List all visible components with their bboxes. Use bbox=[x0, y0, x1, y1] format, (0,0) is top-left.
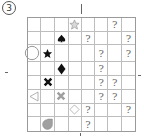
grid-cell-r3-c7 bbox=[122, 62, 135, 76]
grid-cell-r7-c5 bbox=[95, 117, 108, 131]
grid-cell-r0-c1 bbox=[41, 18, 55, 32]
spade-icon bbox=[57, 34, 66, 43]
grid-cell-r7-c4: ? bbox=[82, 117, 95, 131]
grid-cell-r3-c2 bbox=[55, 62, 68, 76]
grid-cell-r5-c1 bbox=[41, 90, 55, 104]
grid-cell-r1-c3 bbox=[69, 32, 82, 46]
grid-cell-r0-c0 bbox=[28, 18, 41, 32]
grid-cell-r4-c5: ? bbox=[95, 76, 108, 90]
cross-filled-icon bbox=[43, 77, 53, 87]
grid-cell-r6-c7: ? bbox=[122, 104, 135, 118]
grid-cell-r0-c4 bbox=[82, 18, 95, 32]
question-mark: ? bbox=[112, 77, 117, 88]
grid-cell-r4-c4 bbox=[82, 76, 95, 90]
bottom-tick-mark bbox=[80, 133, 81, 136]
grid-cell-r1-c2 bbox=[55, 32, 68, 46]
grid-cell-r5-c7 bbox=[122, 90, 135, 104]
grid-cell-r7-c1 bbox=[41, 117, 55, 131]
grid-cell-r5-c5: ? bbox=[95, 90, 108, 104]
triangle-left-outline-icon bbox=[29, 91, 39, 102]
grid-cell-r3-c3 bbox=[69, 62, 82, 76]
grid-cell-r3-c6 bbox=[108, 62, 121, 76]
puzzle-grid: ????????????? bbox=[27, 17, 136, 132]
question-mark: ? bbox=[126, 48, 131, 59]
grid-cell-r0-c6: ? bbox=[108, 18, 121, 32]
star-filled-icon bbox=[42, 48, 53, 59]
grid-cell-r1-c6 bbox=[108, 32, 121, 46]
grid-cell-r2-c6 bbox=[108, 45, 121, 62]
grid-cell-r1-c4: ? bbox=[82, 32, 95, 46]
question-mark: ? bbox=[112, 19, 117, 30]
grid-cell-r3-c4 bbox=[82, 62, 95, 76]
grid-cell-r0-c3 bbox=[69, 18, 82, 32]
puzzle-number-label: 3 bbox=[2, 1, 16, 15]
grid-cell-r6-c2 bbox=[55, 104, 68, 118]
question-mark: ? bbox=[85, 104, 90, 115]
grid-cell-r2-c5: ? bbox=[95, 45, 108, 62]
question-mark: ? bbox=[99, 48, 104, 59]
grid-cell-r5-c2 bbox=[55, 90, 68, 104]
left-tick-mark bbox=[5, 72, 8, 73]
grid-cell-r7-c3 bbox=[69, 117, 82, 131]
star-outline-icon bbox=[69, 19, 80, 30]
question-mark: ? bbox=[112, 91, 117, 102]
grid-cell-r6-c0 bbox=[28, 104, 41, 118]
grid-cell-r2-c2 bbox=[55, 45, 68, 62]
grid-cell-r3-c5: ? bbox=[95, 62, 108, 76]
grid-cell-r5-c0 bbox=[28, 90, 41, 104]
grid-cell-r7-c0 bbox=[28, 117, 41, 131]
top-tick-mark bbox=[81, 4, 82, 14]
grid-cell-r7-c2 bbox=[55, 117, 68, 131]
grid-cell-r5-c3 bbox=[69, 90, 82, 104]
grid-cell-r0-c7 bbox=[122, 18, 135, 32]
grid-cell-r1-c1 bbox=[41, 32, 55, 46]
grid-cell-r2-c1 bbox=[41, 45, 55, 62]
question-mark: ? bbox=[99, 91, 104, 102]
circle-outline-icon bbox=[28, 45, 40, 61]
grid-cell-r4-c6: ? bbox=[108, 76, 121, 90]
grid-cell-r2-c0 bbox=[28, 45, 41, 62]
question-mark: ? bbox=[99, 77, 104, 88]
diamond-filled-icon bbox=[57, 63, 66, 75]
grid-cell-r6-c5 bbox=[95, 104, 108, 118]
right-tick-mark bbox=[138, 75, 141, 76]
grid-cell-r6-c4: ? bbox=[82, 104, 95, 118]
cross-gray-icon bbox=[56, 91, 66, 101]
question-mark: ? bbox=[126, 33, 131, 44]
grid-cell-r7-c7 bbox=[122, 117, 135, 131]
grid-cell-r4-c0 bbox=[28, 76, 41, 90]
grid-cell-r6-c1 bbox=[41, 104, 55, 118]
grid-cell-r0-c5 bbox=[95, 18, 108, 32]
grid-cell-r1-c0 bbox=[28, 32, 41, 46]
grid-cell-r4-c7 bbox=[122, 76, 135, 90]
grid-cell-r4-c2 bbox=[55, 76, 68, 90]
grid-cell-r0-c2 bbox=[55, 18, 68, 32]
grid-cell-r2-c4 bbox=[82, 45, 95, 62]
grid-cell-r6-c3 bbox=[69, 104, 82, 118]
grid-cell-r4-c3 bbox=[69, 76, 82, 90]
question-mark: ? bbox=[99, 63, 104, 74]
grid-cell-r5-c4 bbox=[82, 90, 95, 104]
grid-cell-r1-c5 bbox=[95, 32, 108, 46]
grid-cell-r1-c7: ? bbox=[122, 32, 135, 46]
question-mark: ? bbox=[85, 33, 90, 44]
grid-cell-r5-c6: ? bbox=[108, 90, 121, 104]
diamond-outline-icon bbox=[69, 104, 80, 115]
grid-cell-r6-c6 bbox=[108, 104, 121, 118]
question-mark: ? bbox=[85, 119, 90, 130]
grid-cell-r3-c0 bbox=[28, 62, 41, 76]
grid-cell-r3-c1 bbox=[41, 62, 55, 76]
grid-cell-r2-c3 bbox=[69, 45, 82, 62]
drop-gray-icon bbox=[41, 118, 54, 131]
question-mark: ? bbox=[126, 104, 131, 115]
grid-cell-r7-c6 bbox=[108, 117, 121, 131]
grid-cell-r2-c7: ? bbox=[122, 45, 135, 62]
grid-cell-r4-c1 bbox=[41, 76, 55, 90]
